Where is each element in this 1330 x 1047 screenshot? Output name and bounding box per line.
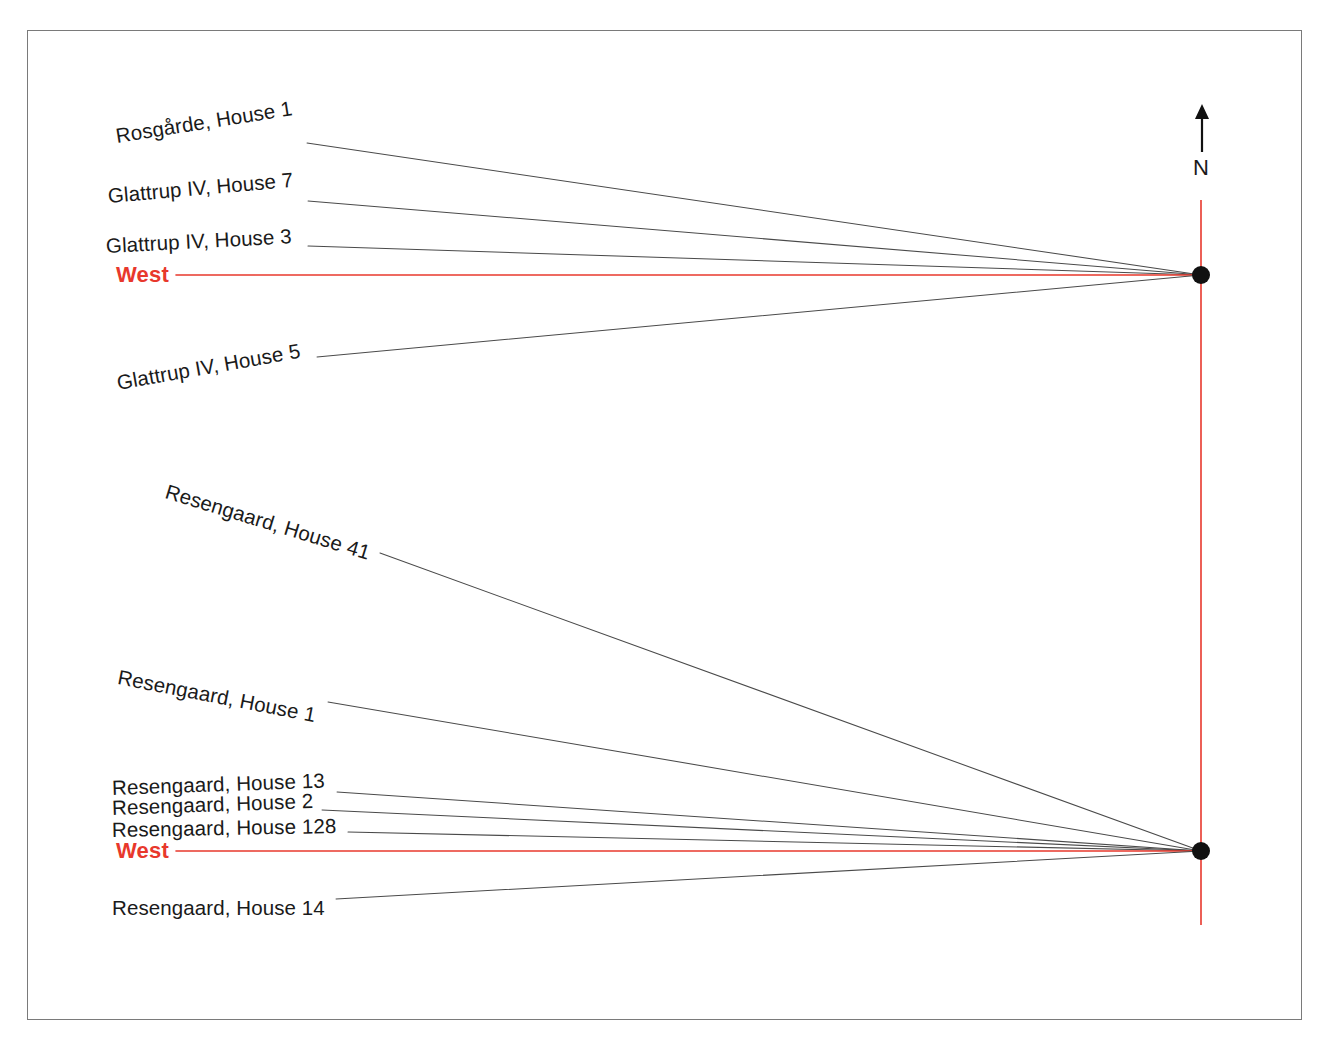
compass-layer xyxy=(1195,104,1209,152)
leader-line-glattrup-iv-house-3 xyxy=(308,246,1201,275)
north-label: N xyxy=(1193,155,1209,181)
convergence-node-lower-node xyxy=(1192,842,1210,860)
convergence-node-upper-node xyxy=(1192,266,1210,284)
house-label-west: West xyxy=(116,838,169,864)
leader-line-layer xyxy=(176,143,1201,899)
leader-line-resengaard-house-13 xyxy=(337,792,1201,851)
leader-line-glattrup-iv-house-5 xyxy=(317,275,1201,357)
leader-line-rosg-rde-house-1 xyxy=(307,143,1201,275)
leader-line-resengaard-house-128 xyxy=(348,832,1201,851)
leader-line-resengaard-house-2 xyxy=(322,810,1201,851)
diagram-page: Rosgårde, House 1Glattrup IV, House 7Gla… xyxy=(0,0,1330,1047)
house-label-west: West xyxy=(116,262,169,288)
leader-line-glattrup-iv-house-7 xyxy=(308,201,1201,275)
house-label-resengaard-house-14: Resengaard, House 14 xyxy=(112,896,325,920)
north-arrow-head-icon xyxy=(1195,104,1209,119)
leader-line-resengaard-house-14 xyxy=(336,851,1201,899)
leader-line-resengaard-house-1 xyxy=(328,702,1201,851)
diagram-canvas xyxy=(0,0,1330,1047)
leader-line-resengaard-house-41 xyxy=(380,553,1201,851)
